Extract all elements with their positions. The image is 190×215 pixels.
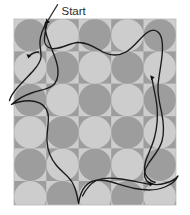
start-annotation: Start — [48, 5, 86, 20]
start-leader-line — [48, 5, 57, 20]
start-label: Start — [62, 5, 87, 17]
figure-geodesic-on-tiling: Start — [0, 0, 190, 215]
